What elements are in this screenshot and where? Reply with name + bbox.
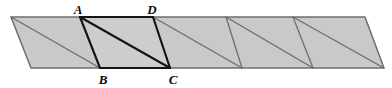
vertex-label-b: B — [99, 73, 108, 86]
vertex-label-c: C — [169, 73, 178, 86]
figure-canvas — [0, 0, 392, 88]
vertex-label-a: A — [74, 3, 83, 16]
vertex-label-d: D — [147, 3, 156, 16]
geometry-figure: A D B C — [0, 0, 392, 88]
